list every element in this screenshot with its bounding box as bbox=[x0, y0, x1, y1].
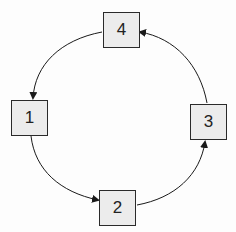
edge-1-to-2 bbox=[31, 136, 98, 200]
node-4: 4 bbox=[103, 12, 140, 48]
node-label: 2 bbox=[113, 198, 122, 218]
edge-2-to-3 bbox=[137, 142, 205, 205]
node-label: 3 bbox=[204, 112, 213, 132]
node-label: 1 bbox=[25, 108, 34, 128]
node-label: 4 bbox=[117, 20, 126, 40]
node-2: 2 bbox=[99, 190, 136, 226]
edge-4-to-1 bbox=[33, 32, 102, 98]
cycle-diagram: 4 1 3 2 bbox=[0, 0, 236, 232]
node-3: 3 bbox=[190, 104, 227, 140]
node-1: 1 bbox=[11, 100, 48, 136]
edge-3-to-4 bbox=[140, 32, 207, 103]
